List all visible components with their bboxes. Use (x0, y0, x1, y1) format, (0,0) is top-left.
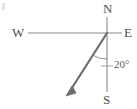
compass-drawing-canvas (0, 0, 137, 109)
bearing-diagram-figure: N E W S 20° (0, 0, 137, 109)
angle-arc (94, 56, 107, 59)
bearing-arrow-shaft (70, 33, 107, 91)
bearing-arrowhead (66, 86, 76, 96)
cardinal-label-south: S (103, 93, 110, 106)
angle-measure-label: 20° (114, 59, 129, 70)
cardinal-label-north: N (103, 2, 112, 15)
cardinal-label-east: E (124, 26, 132, 39)
cardinal-label-west: W (12, 26, 24, 39)
